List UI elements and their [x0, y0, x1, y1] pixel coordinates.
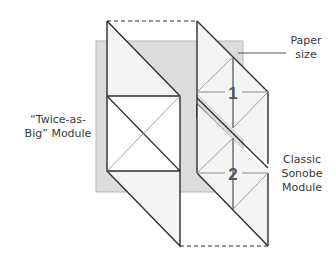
module-number-2: 2 — [228, 165, 237, 184]
label-line: size — [282, 48, 330, 62]
label-line: Sonobe — [270, 167, 334, 181]
label-line: Classic — [270, 153, 334, 167]
label-line: Big” Module — [18, 127, 98, 141]
label-line: Module — [270, 181, 334, 195]
classic-sonobe-module-label: Classic Sonobe Module — [270, 153, 334, 195]
twice-as-big-module-label: “Twice-as- Big” Module — [18, 113, 98, 141]
label-line: Paper — [282, 34, 330, 48]
module-number-1: 1 — [228, 84, 237, 103]
label-line: “Twice-as- — [18, 113, 98, 127]
paper-size-label: Paper size — [282, 34, 330, 62]
